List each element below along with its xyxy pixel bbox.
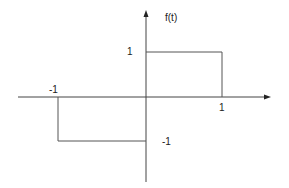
y-tick-label-neg: -1 <box>162 136 171 147</box>
x-tick-label-neg: -1 <box>49 84 58 95</box>
x-tick-label-pos: 1 <box>219 102 225 113</box>
x-axis-arrow-icon <box>264 95 271 100</box>
negative-pulse <box>58 97 146 141</box>
y-axis-label: f(t) <box>165 12 177 23</box>
y-tick-label-pos: 1 <box>127 46 133 57</box>
diagram-svg: f(t) 1 -1 -1 1 <box>0 0 289 188</box>
positive-pulse <box>146 52 222 97</box>
signal-diagram: f(t) 1 -1 -1 1 <box>0 0 289 188</box>
y-axis-arrow-icon <box>144 10 149 17</box>
